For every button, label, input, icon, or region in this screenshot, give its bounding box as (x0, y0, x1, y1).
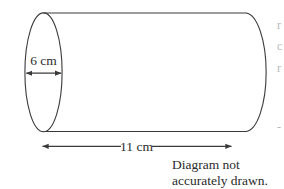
cylinder-figure: 6 cm 11 cm Diagram not accurately drawn.… (0, 0, 284, 189)
edge-text-fragment-2: c (277, 39, 282, 53)
edge-text-fragment-1: r (277, 18, 281, 32)
not-to-scale-note-line1: Diagram not (172, 157, 240, 172)
length-label: 11 cm (120, 139, 153, 154)
cylinder-left-end-ellipse (25, 13, 62, 132)
edge-text-fragment-3: r (277, 61, 281, 75)
diameter-label: 6 cm (30, 53, 57, 68)
not-to-scale-note-line2: accurately drawn. (172, 173, 268, 188)
diagram-canvas: 6 cm 11 cm Diagram not accurately drawn.… (0, 0, 284, 189)
cylinder-right-end-arc (246, 13, 266, 132)
edge-text-fragment-4: - (277, 120, 281, 134)
